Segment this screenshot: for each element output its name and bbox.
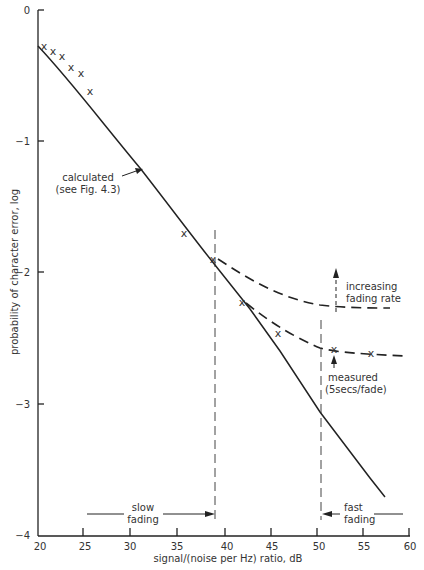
svg-text:fading: fading — [344, 514, 375, 525]
y-tick-1: −1 — [15, 136, 30, 147]
svg-text:increasing: increasing — [346, 281, 397, 292]
svg-text:(5secs/fade): (5secs/fade) — [325, 384, 387, 395]
annotation-calculated: calculated (see Fig. 4.3) — [56, 168, 143, 195]
y-tick-3: −3 — [15, 399, 30, 410]
svg-text:x: x — [68, 61, 75, 74]
svg-text:x: x — [210, 253, 217, 266]
x-tick-35: 35 — [171, 541, 184, 552]
x-tick-30: 30 — [124, 541, 137, 552]
svg-text:x: x — [181, 227, 188, 240]
svg-text:measured: measured — [328, 372, 378, 383]
svg-text:x: x — [275, 327, 282, 340]
svg-text:fast: fast — [344, 502, 363, 513]
region-fast-fading: fast fading — [322, 502, 403, 525]
x-tick-60: 60 — [404, 541, 417, 552]
region-boundaries — [215, 230, 321, 520]
measured-curve — [246, 303, 405, 356]
x-tick-labels: 20 25 30 35 40 45 50 55 60 — [34, 541, 417, 552]
y-tick-4: −4 — [15, 530, 30, 541]
x-tick-45: 45 — [266, 541, 279, 552]
svg-text:fading rate: fading rate — [346, 293, 401, 304]
x-axis-label: signal/(noise per Hz) ratio, dB — [154, 553, 303, 564]
svg-text:fading: fading — [127, 514, 158, 525]
region-slow-fading: slow fading — [87, 502, 215, 525]
svg-text:x: x — [59, 50, 66, 63]
svg-text:x: x — [50, 45, 57, 58]
svg-text:x: x — [239, 296, 246, 309]
x-tick-20: 20 — [34, 541, 47, 552]
svg-text:x: x — [78, 67, 85, 80]
svg-text:x: x — [331, 343, 338, 356]
x-tick-50: 50 — [313, 541, 326, 552]
x-tick-40: 40 — [221, 541, 234, 552]
svg-text:x: x — [87, 85, 94, 98]
annotation-measured: measured (5secs/fade) — [325, 355, 387, 395]
x-tick-55: 55 — [358, 541, 371, 552]
annotation-increasing-fading-rate: increasing fading rate — [333, 268, 401, 312]
svg-text:calculated: calculated — [62, 172, 114, 183]
y-tick-0: 0 — [24, 5, 30, 16]
measured-points: x x x x x x x x x x x x — [41, 40, 375, 360]
svg-text:slow: slow — [132, 502, 154, 513]
calculated-curve — [38, 46, 385, 497]
svg-text:(see Fig. 4.3): (see Fig. 4.3) — [56, 184, 121, 195]
x-tick-25: 25 — [79, 541, 92, 552]
y-axis-label: probability of character error, log — [9, 189, 20, 355]
chart: 0 −1 −2 −3 −4 20 25 30 35 40 45 50 55 60… — [0, 0, 424, 570]
svg-text:x: x — [41, 40, 48, 53]
svg-text:x: x — [368, 347, 375, 360]
